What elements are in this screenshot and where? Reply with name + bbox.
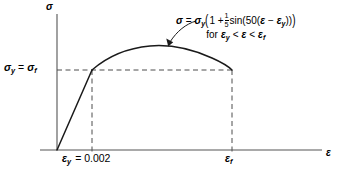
x-axis-label: ε [326, 148, 331, 159]
epsilon-f-tick-label: εf [225, 153, 232, 166]
sigma-f-subscript: f [34, 66, 36, 75]
eq-close-parens: )) [285, 15, 292, 26]
eq2-epsilon-f-subscript: f [263, 34, 265, 41]
epsilon-y-value: = 0.002 [75, 152, 110, 164]
eq2-less-than-1: < [233, 29, 239, 40]
equation-line-2: forεy<ε<εf [176, 30, 296, 41]
eq2-epsilon-y-subscript: y [226, 34, 230, 41]
eq-sin-open: sin(50( [230, 15, 261, 26]
sigma-y-axis-tick-label: σy=σf [4, 62, 37, 75]
eq-fraction-denominator: 5 [225, 21, 229, 28]
eq-for-keyword: for [206, 29, 218, 40]
eq-lhs-sigma: σ [176, 15, 183, 26]
epsilon-y-subscript: y [67, 157, 71, 166]
eq-close-outer-paren: ) [292, 14, 295, 29]
x-axis-label-text: ε [326, 147, 331, 158]
plastic-curve-segment [92, 46, 232, 70]
eq2-less-than-2: < [249, 29, 255, 40]
eq2-epsilon: ε [241, 29, 246, 40]
y-axis-label: σ [46, 2, 53, 13]
epsilon-f-subscript: f [230, 157, 232, 166]
elastic-curve-segment [57, 70, 92, 150]
eq-one-plus: 1 + [209, 15, 223, 26]
eq-minus: − [268, 15, 274, 26]
sigma-symbol: σ [4, 61, 11, 73]
y-axis-label-text: σ [46, 1, 53, 12]
eq-fraction-numerator: 1 [225, 12, 229, 19]
eq-epsilon: ε [260, 15, 265, 26]
sigma-y-subscript: y [11, 66, 15, 75]
eq-equals: = [186, 15, 192, 26]
eq-fraction-one-fifth: 15 [225, 12, 229, 28]
epsilon-y-tick-label: εy= 0.002 [62, 153, 110, 166]
equals-sign: = [18, 61, 24, 73]
eq-open-paren: ( [205, 14, 208, 29]
equation-annotation: σ=σy(1 +15sin(50(ε−εy))) forεy<ε<εf [176, 12, 296, 42]
equation-line-1: σ=σy(1 +15sin(50(ε−εy))) [176, 15, 296, 26]
stress-strain-figure: σ ε σy=σf εy= 0.002 εf σ=σy(1 +15sin(50(… [0, 0, 346, 177]
